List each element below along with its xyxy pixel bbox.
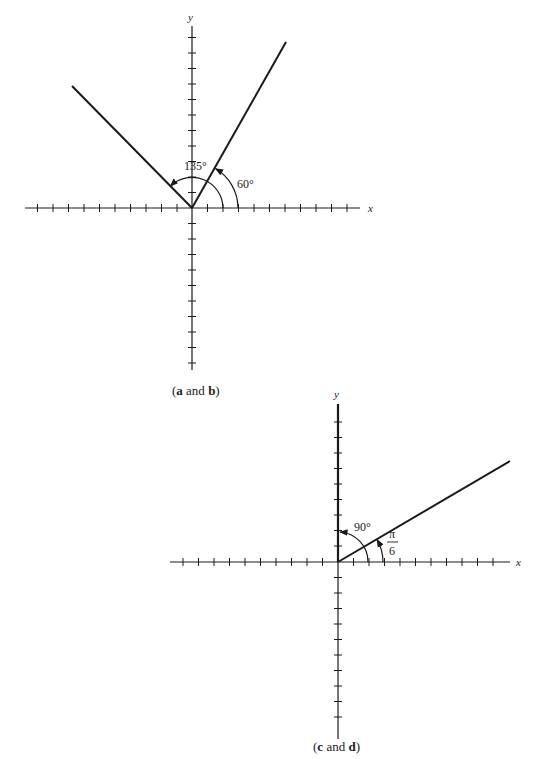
caption-a-b: (a and b) <box>172 383 220 398</box>
arc-pi-over-6 <box>377 540 383 563</box>
arc-60-degrees <box>216 169 239 208</box>
angle-label-pi-over-6: π 6 <box>387 527 398 558</box>
figure-c-d: x y 90° π 6 (c and d) <box>170 388 521 754</box>
x-axis-label: x <box>515 556 521 568</box>
figure-a-b: x y 135° 60° (a and b) <box>25 11 373 398</box>
angle-label-90: 90° <box>354 520 371 534</box>
fraction-denominator: 6 <box>389 544 395 558</box>
angle-label-60: 60° <box>237 177 254 191</box>
fraction-numerator: π <box>389 527 395 541</box>
caption-c-d: (c and d) <box>313 739 360 754</box>
y-axis-label: y <box>333 388 339 400</box>
x-axis-label: x <box>367 202 373 214</box>
diagram-canvas: x y 135° 60° (a and b) <box>0 0 543 759</box>
y-axis-label: y <box>187 11 193 23</box>
angle-label-135: 135° <box>184 159 207 173</box>
ray-135-degrees <box>72 86 192 208</box>
